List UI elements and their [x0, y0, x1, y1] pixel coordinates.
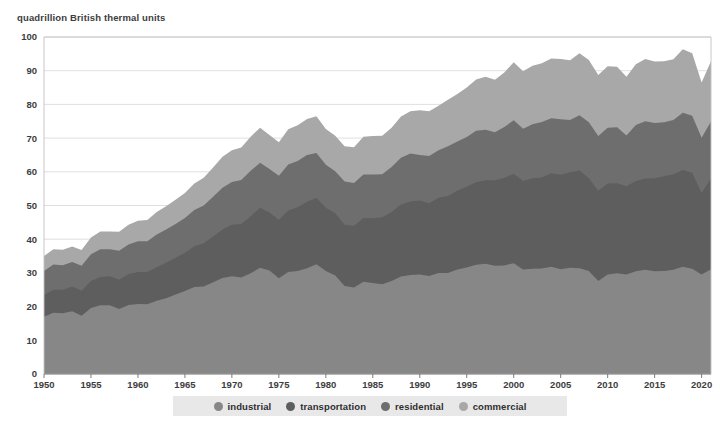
legend-entry-residential[interactable]: residential	[381, 401, 444, 412]
y-tick-label-30: 30	[26, 267, 37, 278]
y-tick-label-80: 80	[26, 99, 37, 110]
area-series-group	[44, 49, 711, 374]
x-tick-label-1995: 1995	[456, 379, 478, 390]
legend-label-transportation: transportation	[300, 401, 366, 412]
y-tick-label-70: 70	[26, 133, 37, 144]
legend-swatch-icon-transportation	[286, 402, 295, 411]
y-tick-label-50: 50	[26, 200, 37, 211]
stacked-area-plot: 0102030405060708090100 19501955196019651…	[0, 0, 724, 427]
y-tick-label-20: 20	[26, 301, 37, 312]
y-tick-label-10: 10	[26, 335, 37, 346]
x-tick-label-1965: 1965	[174, 379, 196, 390]
legend-swatch-icon-commercial	[459, 402, 468, 411]
x-tick-label-1975: 1975	[268, 379, 290, 390]
x-tick-label-1955: 1955	[80, 379, 102, 390]
chart-legend: industrialtransportationresidentialcomme…	[173, 396, 567, 416]
y-tick-label-90: 90	[26, 65, 37, 76]
x-tick-label-2010: 2010	[597, 379, 618, 390]
x-tick-label-2015: 2015	[644, 379, 666, 390]
x-tick-label-1980: 1980	[315, 379, 336, 390]
y-tick-label-0: 0	[32, 368, 37, 379]
legend-entry-commercial[interactable]: commercial	[459, 401, 527, 412]
y-tick-label-40: 40	[26, 234, 37, 245]
x-tick-label-2020: 2020	[691, 379, 712, 390]
x-tick-label-1970: 1970	[221, 379, 242, 390]
x-tick-label-1960: 1960	[127, 379, 148, 390]
legend-label-industrial: industrial	[228, 401, 272, 412]
y-tick-label-60: 60	[26, 166, 37, 177]
x-tick-label-1990: 1990	[409, 379, 430, 390]
legend-entry-transportation[interactable]: transportation	[286, 401, 366, 412]
legend-label-commercial: commercial	[473, 401, 527, 412]
x-tick-label-1950: 1950	[33, 379, 54, 390]
x-axis-ticks-group: 1950195519601965197019751980198519901995…	[33, 374, 712, 390]
energy-consumption-chart-figure: quadrillion British thermal units 010203…	[0, 0, 724, 427]
legend-entry-industrial[interactable]: industrial	[214, 401, 272, 412]
x-tick-label-2005: 2005	[550, 379, 572, 390]
legend-swatch-icon-residential	[381, 402, 390, 411]
y-tick-label-100: 100	[21, 31, 37, 42]
x-tick-label-1985: 1985	[362, 379, 384, 390]
legend-swatch-icon-industrial	[214, 402, 223, 411]
legend-label-residential: residential	[395, 401, 444, 412]
y-axis-ticks-group: 0102030405060708090100	[21, 31, 37, 379]
x-tick-label-2000: 2000	[503, 379, 524, 390]
